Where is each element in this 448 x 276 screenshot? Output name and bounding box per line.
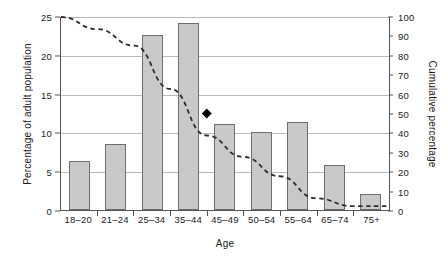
secondary-y-axis-tick-label: 50	[398, 109, 432, 120]
plot-area	[60, 17, 390, 211]
secondary-y-axis-tick-label: 70	[398, 70, 432, 81]
y-axis-tick-label: 25	[12, 12, 52, 23]
x-axis-tick-mark	[280, 211, 281, 216]
y-axis-tick-label: 0	[12, 206, 52, 217]
cumulative-percentage-line	[61, 17, 389, 210]
secondary-y-axis-tick-label: 80	[398, 50, 432, 61]
secondary-y-axis-tick-label: 30	[398, 147, 432, 158]
x-axis-tick-mark	[243, 211, 244, 216]
secondary-y-axis-tick-label: 20	[398, 167, 432, 178]
y-axis-tick-label: 20	[12, 50, 52, 61]
x-axis-tick-label: 75+	[342, 214, 402, 225]
y-axis-tick-label: 10	[12, 128, 52, 139]
x-axis-tick-mark	[133, 211, 134, 216]
x-axis-title: Age	[60, 238, 390, 249]
secondary-y-axis-tick-label: 60	[398, 89, 432, 100]
x-axis-tick-mark	[353, 211, 354, 216]
cumulative-curve-path	[61, 17, 389, 206]
secondary-y-axis-tick-label: 100	[398, 12, 432, 23]
x-axis-tick-mark	[317, 211, 318, 216]
cumulative-age-distribution-chart: Percentage of adult population Cumulativ…	[0, 0, 448, 276]
x-axis-tick-mark	[170, 211, 171, 216]
secondary-y-axis-tick-label: 40	[398, 128, 432, 139]
y-axis-tick-label: 15	[12, 89, 52, 100]
x-axis-tick-mark	[207, 211, 208, 216]
y-axis-tick-label: 5	[12, 167, 52, 178]
y-axis-title: Percentage of adult population	[22, 19, 33, 209]
median-marker-icon	[202, 109, 212, 119]
x-axis-tick-mark	[97, 211, 98, 216]
secondary-y-axis-tick-label: 0	[398, 206, 432, 217]
y-axis-title-container: Percentage of adult population	[8, 17, 24, 211]
secondary-y-axis-tick-label: 90	[398, 31, 432, 42]
secondary-y-axis-tick-label: 10	[398, 186, 432, 197]
